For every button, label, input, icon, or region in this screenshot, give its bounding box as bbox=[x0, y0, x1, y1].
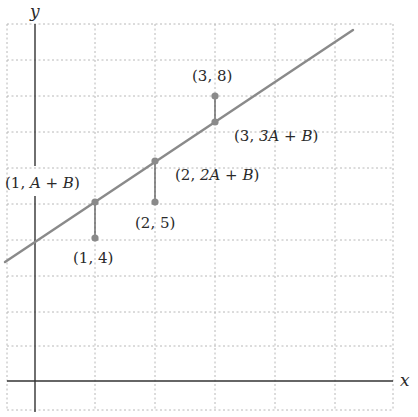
fitted-line bbox=[5, 30, 353, 262]
fitted-point-1 bbox=[91, 198, 98, 205]
data-point-1-4 bbox=[91, 234, 98, 241]
diagram-canvas: y x (1, 4) (2, 5) (3, 8) (1, A + B) (2, … bbox=[0, 0, 418, 417]
label-fitted-point-1: (1, A + B) bbox=[5, 174, 80, 192]
label-fitted-point-2: (2, 2A + B) bbox=[175, 166, 259, 184]
fitted-point-2 bbox=[151, 157, 158, 164]
label-data-point-2: (2, 5) bbox=[135, 214, 175, 232]
label-fitted-point-3: (3, 3A + B) bbox=[234, 127, 318, 145]
data-point-3-8 bbox=[211, 92, 218, 99]
data-point-2-5 bbox=[151, 198, 158, 205]
fitted-point-3 bbox=[211, 118, 218, 125]
label-data-point-3: (3, 8) bbox=[192, 67, 232, 85]
label-data-point-1: (1, 4) bbox=[73, 249, 113, 267]
least-squares-diagram: y x (1, 4) (2, 5) (3, 8) (1, A + B) (2, … bbox=[0, 0, 418, 417]
x-axis-label: x bbox=[400, 370, 410, 390]
y-axis-label: y bbox=[29, 1, 40, 21]
